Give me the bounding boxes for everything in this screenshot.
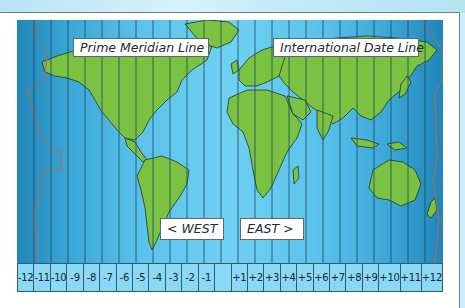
zone-label: +5 — [297, 264, 313, 291]
west-label: < WEST — [160, 218, 224, 240]
zone-label: -2 — [182, 264, 198, 291]
zone-label: -7 — [100, 264, 116, 291]
zone-label: -10 — [51, 264, 67, 291]
continent-north-america — [42, 44, 212, 140]
prime-meridian-label: Prime Meridian Line — [73, 38, 209, 57]
continent-australia — [369, 160, 421, 206]
zone-label: +11 — [401, 264, 422, 291]
east-label: EAST > — [240, 218, 304, 240]
zone-label: -1 — [199, 264, 215, 291]
zone-label: +1 — [232, 264, 248, 291]
date-line-label: International Date Line — [273, 38, 419, 57]
zone-label: -3 — [166, 264, 182, 291]
zone-label — [215, 264, 231, 291]
zone-label: +10 — [379, 264, 400, 291]
zone-label: -4 — [149, 264, 165, 291]
zone-label: +4 — [281, 264, 297, 291]
zone-label: +3 — [264, 264, 280, 291]
zone-label: +6 — [314, 264, 330, 291]
world-time-zone-map: Prime Meridian Line International Date L… — [17, 20, 443, 263]
time-zone-strip: -12 -11 -10 -9 -8 -7 -6 -5 -4 -3 -2 -1 +… — [17, 263, 443, 292]
zone-label: -9 — [67, 264, 83, 291]
zone-label: +2 — [248, 264, 264, 291]
island-new-zealand — [427, 198, 437, 218]
islands-indonesia — [351, 138, 407, 150]
zone-label: -6 — [117, 264, 133, 291]
zone-label: +7 — [330, 264, 346, 291]
island-madagascar — [293, 166, 299, 184]
zone-label: -12 — [18, 264, 34, 291]
zone-label: +8 — [346, 264, 362, 291]
zone-label: -5 — [133, 264, 149, 291]
zone-label: -8 — [84, 264, 100, 291]
zone-label: +12 — [422, 264, 442, 291]
zone-label: +9 — [363, 264, 379, 291]
zone-label: -11 — [34, 264, 50, 291]
